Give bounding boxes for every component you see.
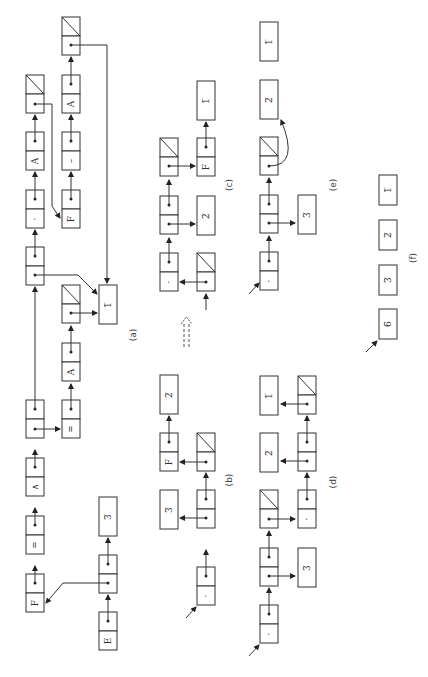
panel-f: 1̅ 2̅ 3̅ 6̅ (f) — [366, 175, 418, 352]
linked-list-diagram: F = ∧ — [0, 0, 428, 677]
svg-text:·: · — [201, 594, 211, 597]
svg-text:F: F — [164, 459, 174, 465]
svg-text:3̅: 3̅ — [103, 514, 113, 520]
value-box: 2̅ — [197, 196, 215, 235]
value-box: 3̅ — [99, 497, 117, 536]
svg-text:A: A — [66, 368, 76, 376]
svg-text:·: · — [30, 217, 40, 220]
svg-text:=: = — [66, 425, 76, 433]
list-node-nil — [260, 137, 278, 175]
svg-text:3̅: 3̅ — [302, 565, 312, 571]
svg-text:F: F — [30, 600, 40, 606]
list-node-nil — [62, 17, 80, 55]
value-box: 6̅ — [379, 309, 397, 339]
caption-b: (b) — [224, 474, 234, 487]
list-node-nil — [260, 490, 278, 528]
svg-text:1̅: 1̅ — [264, 39, 274, 45]
panel-c: · 2̅ — [160, 81, 234, 310]
value-box: 2̅ — [260, 80, 278, 119]
list-node-nil — [26, 75, 44, 113]
caption-c: (c) — [224, 179, 234, 191]
svg-text:∧: ∧ — [30, 484, 40, 491]
caption-a: (a) — [128, 329, 138, 342]
value-box: 3̅ — [160, 490, 178, 529]
list-node-nil — [160, 138, 178, 176]
svg-text:1̅: 1̅ — [103, 302, 113, 308]
value-box: 1̅ — [379, 175, 397, 205]
svg-text:F: F — [201, 164, 211, 170]
svg-text:1̅: 1̅ — [201, 98, 211, 104]
svg-text:2̅: 2̅ — [383, 232, 393, 238]
svg-text:3̅: 3̅ — [302, 212, 312, 218]
value-box: 1̅ — [99, 285, 117, 324]
svg-text:2̅: 2̅ — [201, 213, 211, 219]
value-box: 2̅ — [160, 375, 178, 414]
panel-b: 3̅ F 2̅ · — [160, 375, 234, 618]
panel-e: · 3̅ 2̅ 1̅ (e) — [249, 22, 338, 294]
caption-d: (d) — [328, 476, 338, 489]
svg-text:=: = — [30, 541, 40, 549]
svg-text:2̅: 2̅ — [264, 97, 274, 103]
svg-text:·: · — [264, 279, 274, 282]
panel-d: · 3̅ · — [249, 376, 338, 656]
value-box: 2̅ — [260, 433, 278, 472]
svg-text:1̅: 1̅ — [383, 187, 393, 193]
value-box: 1̅ — [197, 81, 215, 120]
caption-e: (e) — [328, 179, 338, 192]
value-box: 3̅ — [379, 265, 397, 295]
svg-text:2̅: 2̅ — [164, 392, 174, 398]
caption-f: (f) — [408, 253, 418, 263]
value-box: 3̅ — [298, 548, 316, 587]
svg-text:3̅: 3̅ — [164, 507, 174, 513]
svg-text:3̅: 3̅ — [383, 277, 393, 283]
svg-text:F: F — [66, 216, 76, 222]
svg-text:2̅: 2̅ — [264, 450, 274, 456]
svg-text:E: E — [103, 638, 113, 645]
svg-text:A: A — [66, 100, 76, 108]
svg-text:·: · — [302, 517, 312, 520]
svg-text:·: · — [164, 280, 174, 283]
value-box: 3̅ — [298, 195, 316, 234]
value-box: 2̅ — [379, 220, 397, 250]
svg-text:–: – — [66, 158, 76, 163]
svg-text:1̅: 1̅ — [264, 393, 274, 399]
value-box: 1̅ — [260, 376, 278, 415]
transition-arrow — [181, 317, 192, 347]
panel-a: F = ∧ — [26, 17, 138, 650]
svg-text:A: A — [30, 157, 40, 165]
list-node-nil — [197, 433, 215, 471]
list-node-nil — [62, 285, 80, 323]
svg-text:6̅: 6̅ — [383, 321, 393, 327]
list-node-nil — [298, 376, 316, 414]
value-box: 1̅ — [260, 22, 278, 61]
list-node-nil — [197, 253, 215, 291]
svg-text:·: · — [264, 632, 274, 635]
